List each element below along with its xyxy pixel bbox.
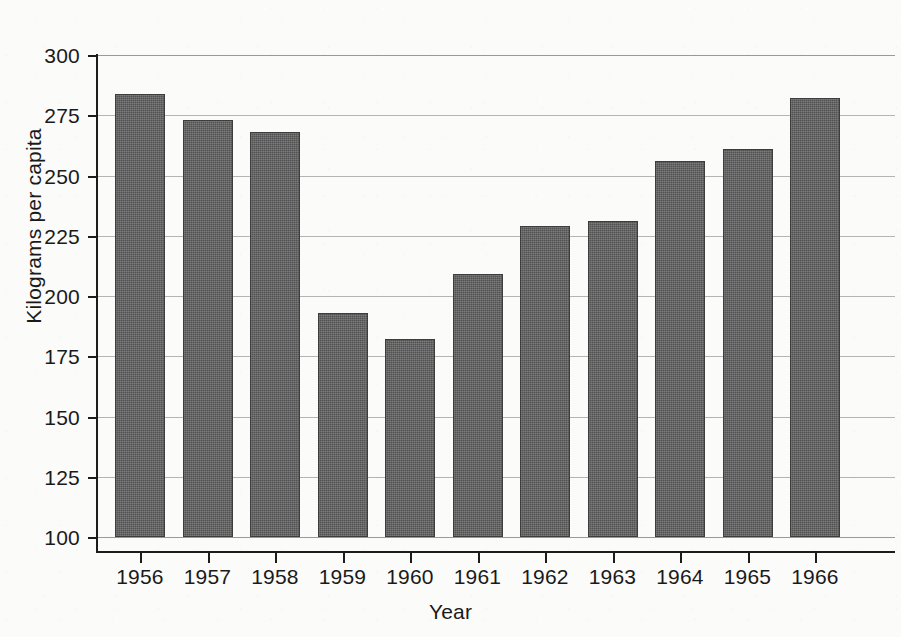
bar-1965 — [723, 149, 773, 537]
x-tick-label-1966: 1966 — [770, 566, 860, 587]
x-tick-mark-1958 — [275, 553, 277, 563]
gridline-275 — [97, 115, 895, 116]
plot-area — [97, 55, 895, 537]
x-tick-mark-1964 — [680, 553, 682, 563]
y-tick-label-100: 100 — [8, 527, 80, 548]
bar-1959 — [318, 313, 368, 537]
x-axis-title: Year — [0, 600, 901, 624]
x-tick-mark-1957 — [208, 553, 210, 563]
bar-1961 — [453, 274, 503, 537]
bar-1962 — [520, 226, 570, 537]
gridline-100 — [97, 537, 895, 538]
x-tick-mark-1961 — [478, 553, 480, 563]
x-tick-mark-1960 — [410, 553, 412, 563]
bar-chart: 1001251501752002252502753001956195719581… — [0, 0, 901, 637]
x-tick-mark-1966 — [815, 553, 817, 563]
bar-1957 — [183, 120, 233, 537]
x-tick-mark-1963 — [613, 553, 615, 563]
x-tick-mark-1959 — [343, 553, 345, 563]
bar-1964 — [655, 161, 705, 537]
y-axis-title: Kilograms per capita — [22, 0, 46, 476]
gridline-300 — [97, 55, 895, 56]
bar-1966 — [790, 98, 840, 537]
x-tick-mark-1962 — [545, 553, 547, 563]
bar-1960 — [385, 339, 435, 537]
bar-1963 — [588, 221, 638, 537]
x-tick-mark-1965 — [748, 553, 750, 563]
bar-1956 — [115, 94, 165, 537]
y-axis-line — [96, 54, 98, 553]
x-axis-line — [96, 551, 895, 553]
x-tick-mark-1956 — [140, 553, 142, 563]
bar-1958 — [250, 132, 300, 537]
